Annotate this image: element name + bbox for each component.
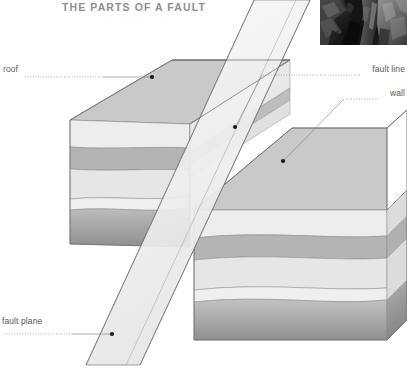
- page-title: THE PARTS OF A FAULT: [62, 1, 206, 13]
- right-block-layer-2-band: [194, 235, 387, 260]
- label-wall: wall: [390, 88, 405, 98]
- fault-plane-target-dot: [110, 332, 114, 336]
- fault-diagram-figure: THE PARTS OF A FAULT roof fault line wal…: [0, 0, 407, 370]
- callout-fault-plane: [4, 332, 114, 336]
- roof-target-dot: [150, 75, 154, 79]
- left-block-layer-2-band: [70, 147, 190, 170]
- callout-roof: [25, 75, 154, 79]
- right-block-top-right-edge: [387, 110, 407, 128]
- label-fault-plane: fault plane: [2, 316, 42, 326]
- wall-target-dot: [281, 159, 285, 163]
- right-block-layer-3: [194, 257, 387, 290]
- fault-line-target-dot: [233, 125, 237, 129]
- left-block-layer-1: [70, 120, 190, 148]
- fault-outcrop-photo: [320, 0, 407, 45]
- label-roof: roof: [3, 64, 18, 74]
- fault-diagram-canvas: [0, 0, 407, 370]
- right-block-layer-5-deep: [194, 299, 387, 340]
- fault-outcrop-photo-art: [320, 0, 407, 45]
- right-block-layer-1: [194, 210, 387, 238]
- label-fault-line: fault line: [372, 64, 405, 74]
